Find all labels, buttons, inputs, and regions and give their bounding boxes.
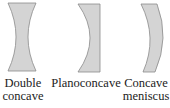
concave-meniscus-lens-shape	[141, 4, 163, 72]
planoconcave-lens-shape	[78, 4, 100, 72]
concave-meniscus-label-line2: meniscus	[122, 90, 170, 103]
planoconcave-label: Planoconcave	[50, 77, 122, 90]
concave-meniscus-label: Concave meniscus	[122, 77, 170, 103]
double-concave-label: Double concave	[2, 77, 44, 103]
lens-diagram	[0, 0, 170, 76]
planoconcave-label-line1: Planoconcave	[50, 77, 122, 90]
double-concave-lens-shape	[8, 3, 36, 71]
double-concave-label-line2: concave	[2, 90, 44, 103]
